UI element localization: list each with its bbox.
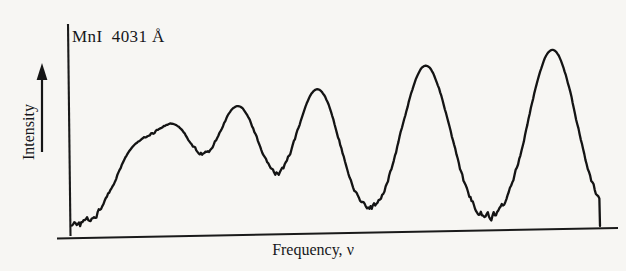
y-axis-line	[68, 24, 71, 236]
x-axis-line	[57, 228, 618, 239]
x-axis-label: Frequency, ν	[0, 241, 626, 259]
sample-label: MnI 4031 Å	[72, 27, 165, 47]
x-axis-nu-symbol: ν	[347, 241, 354, 258]
intensity-arrow-icon	[37, 63, 48, 152]
x-axis-label-text: Frequency,	[272, 241, 347, 258]
spectrum-trace	[72, 50, 600, 226]
y-axis-label: Intensity	[20, 72, 38, 192]
spectrogram-figure: MnI 4031 Å Intensity Frequency, ν	[0, 0, 626, 271]
